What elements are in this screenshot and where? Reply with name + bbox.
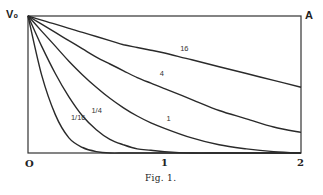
curve-label-1-over-4: 1/4 [91, 106, 101, 115]
curve-1-over-4 [28, 16, 301, 153]
curve-4 [28, 16, 301, 132]
curve-1 [28, 16, 301, 153]
curves [28, 16, 301, 153]
plot-frame [28, 16, 301, 153]
curve-label-4: 4 [160, 69, 164, 78]
x-tick-2: 2 [297, 157, 304, 168]
x-tick-1: 1 [161, 157, 168, 168]
x-tick-0: O [25, 158, 34, 169]
curve-16 [28, 16, 301, 87]
curve-label-1-over-16: 1/16 [71, 113, 86, 122]
curve-1-over-16 [28, 16, 301, 153]
curve-label-16: 16 [180, 44, 188, 53]
figure: V₀ A 16411/41/16 O 1 2 Fig. 1. [0, 0, 323, 195]
plot-border [28, 16, 301, 153]
curve-label-1: 1 [167, 114, 171, 123]
figure-caption: Fig. 1. [145, 173, 176, 183]
